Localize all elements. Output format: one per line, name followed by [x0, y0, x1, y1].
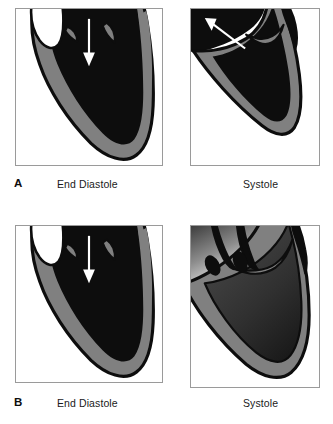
caption-row-a: A End Diastole Systole [0, 177, 333, 197]
caption-b-end-diastole: End Diastole [57, 397, 118, 409]
dilated-systole-illustration [191, 226, 319, 387]
dilated-end-diastole-illustration [16, 226, 162, 382]
panel-dilated-end-diastole [15, 225, 163, 383]
caption-b-systole: Systole [243, 397, 278, 409]
panel-normal-systole [190, 8, 320, 166]
caption-row-b: B End Diastole Systole [0, 396, 333, 416]
normal-end-diastole-illustration [16, 9, 162, 165]
caption-a-systole: Systole [243, 178, 278, 190]
panel-normal-end-diastole [15, 8, 163, 166]
panel-letter-a: A [14, 177, 23, 189]
panel-letter-b: B [14, 396, 23, 408]
cardiac-cycle-figure: A End Diastole Systole [0, 0, 333, 424]
panel-dilated-systole [190, 225, 320, 388]
caption-a-end-diastole: End Diastole [57, 178, 118, 190]
normal-systole-illustration [191, 9, 319, 165]
